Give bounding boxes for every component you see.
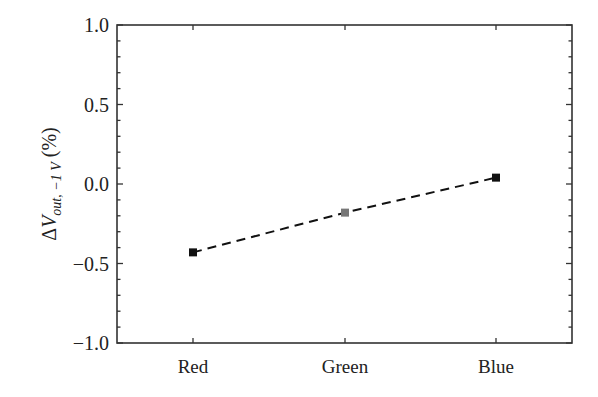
- x-category-label-green: Green: [322, 356, 369, 377]
- data-point-blue: [492, 174, 500, 182]
- subscript: out, −1 V: [49, 161, 64, 216]
- data-point-green: [341, 209, 349, 217]
- x-category-label-red: Red: [178, 356, 209, 377]
- y-axis-title: ΔVout, −1 V (%): [38, 127, 64, 240]
- y-axis-tick-labels: 1.00.50.0−0.5−1.0: [73, 14, 109, 354]
- y-tick-label: −1.0: [73, 332, 109, 354]
- y-axis-label: ΔVout, −1 V (%): [38, 127, 64, 240]
- y-tick-label: −0.5: [73, 253, 109, 275]
- plot-border: [117, 25, 572, 343]
- x-axis-ticks: [193, 25, 496, 343]
- delta-symbol: Δ: [38, 228, 60, 241]
- plot-frame: [117, 25, 572, 343]
- line-chart: 1.00.50.0−0.5−1.0 RedGreenBlue ΔVout, −1…: [0, 0, 598, 397]
- x-category-label-blue: Blue: [478, 356, 514, 377]
- y-tick-label: 0.0: [84, 173, 109, 195]
- y-tick-label: 1.0: [84, 14, 109, 36]
- y-tick-label: 0.5: [84, 94, 109, 116]
- data-point-red: [189, 248, 197, 256]
- y-axis-ticks: [117, 25, 572, 343]
- data-series: [189, 174, 500, 257]
- unit: (%): [38, 127, 61, 162]
- x-axis-category-labels: RedGreenBlue: [178, 356, 514, 377]
